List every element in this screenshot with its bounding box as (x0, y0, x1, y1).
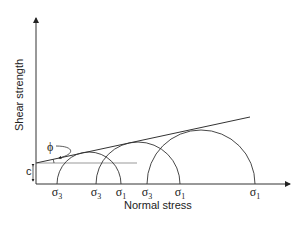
y-axis-label: Shear strength (13, 59, 25, 131)
sigma1-label-1: σ1 (116, 185, 126, 201)
sigma1-label-3: σ1 (250, 185, 260, 201)
sigma3-label-3: σ3 (142, 185, 152, 201)
failure-envelope (36, 117, 250, 163)
sigma3-label-2: σ3 (91, 185, 101, 201)
sigma1-label-2: σ1 (175, 185, 185, 201)
friction-angle-label: ϕ (47, 140, 53, 155)
mohr-circle-3 (147, 130, 255, 184)
cohesion-label: c (26, 165, 32, 177)
sigma3-label-1: σ3 (52, 185, 62, 201)
